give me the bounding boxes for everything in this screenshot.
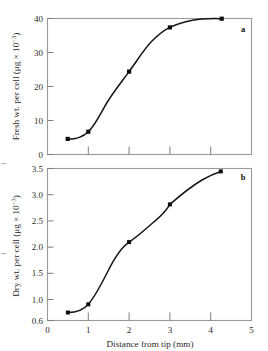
panel-b-data-point — [219, 169, 223, 173]
panel-a-y-tick-label: 10 — [34, 116, 44, 126]
panel-a-y-tick-labels: 0 10 20 30 40 — [34, 14, 44, 159]
x-tick-label: 4 — [208, 325, 213, 335]
panel-b-curve — [68, 172, 221, 313]
x-tick-label: 5 — [249, 325, 254, 335]
x-tick-label: 2 — [127, 325, 132, 335]
panel-a-y-tick-label: 40 — [34, 14, 44, 24]
panel-b-x-ticks — [88, 313, 210, 321]
panel-b-y-axis-title: Dry wt. per cell (μg × 10−3) — [10, 195, 21, 297]
panel-a-data-points — [66, 17, 224, 141]
panel-b-y-tick-label: 2.5 — [32, 216, 44, 226]
panel-b-y-axis-title-close: ) — [11, 195, 21, 198]
x-axis-title: Distance from tip (mm) — [106, 339, 193, 349]
panel-b-y-tick-labels: 0.6 1.0 1.5 2.0 2.5 3.0 3.5 — [32, 164, 44, 326]
panel-a-data-point — [86, 130, 90, 134]
panel-a-y-ticks — [48, 19, 54, 155]
panel-a-data-point — [168, 25, 172, 29]
panel-a-y-axis-title-close: ) — [11, 33, 21, 36]
panel-b-label: b — [241, 172, 246, 182]
panel-b-data-point — [127, 240, 131, 244]
panel-b-y-axis-title-main: Dry wt. per cell (μg × 10 — [11, 205, 21, 297]
panel-a-y-tick-label: 30 — [34, 48, 44, 58]
panel-b-y-tick-label: 1.0 — [32, 295, 44, 305]
panel-a-y-tick-label: 20 — [34, 82, 44, 92]
panel-b-y-tick-label: 0.6 — [32, 316, 44, 326]
panel-a-y-tick-label: 0 — [39, 150, 44, 160]
x-tick-label: 0 — [45, 325, 50, 335]
panel-a-data-point — [220, 17, 224, 21]
panel-b: 0.6 1.0 1.5 2.0 2.5 3.0 3.5 Dry wt. per … — [10, 164, 252, 326]
panel-a-data-point — [66, 137, 70, 141]
x-tick-label: 3 — [168, 325, 173, 335]
x-tick-label: 1 — [86, 325, 91, 335]
scan-artifact-mark — [1, 163, 6, 164]
panel-b-y-tick-label: 3.0 — [32, 190, 44, 200]
panel-a-label: a — [241, 24, 246, 34]
svg-text:Dry wt. per cell (μg × 10−3): Dry wt. per cell (μg × 10−3) — [10, 195, 21, 297]
scan-artifact-mark — [1, 253, 6, 254]
panel-a-data-point — [127, 70, 131, 74]
panel-a: 0 10 20 30 40 Fresh wt. per cell (μg × 1… — [10, 14, 252, 159]
panel-b-y-tick-label: 3.5 — [32, 164, 44, 174]
panel-b-data-point — [86, 302, 90, 306]
panel-b-y-tick-label: 1.5 — [32, 268, 44, 278]
panel-a-y-axis-title-main: Fresh wt. per cell (μg × 10 — [11, 42, 21, 140]
panel-a-y-axis-title: Fresh wt. per cell (μg × 10−3) — [10, 33, 21, 141]
panel-b-y-tick-label: 2.0 — [32, 242, 44, 252]
panel-b-data-points — [66, 169, 223, 314]
panel-b-y-ticks — [48, 169, 54, 321]
panel-b-frame — [48, 169, 252, 321]
panel-a-frame — [48, 19, 252, 155]
panel-b-data-point — [66, 311, 70, 315]
figure-container: 0 10 20 30 40 Fresh wt. per cell (μg × 1… — [0, 0, 268, 351]
two-panel-line-chart: 0 10 20 30 40 Fresh wt. per cell (μg × 1… — [0, 0, 268, 351]
svg-text:Fresh wt. per cell (μg × 10−3): Fresh wt. per cell (μg × 10−3) — [10, 33, 21, 141]
panel-a-curve — [68, 19, 222, 140]
panel-b-data-point — [168, 202, 172, 206]
x-tick-labels: 0 1 2 3 4 5 — [45, 325, 254, 335]
panel-a-x-ticks — [88, 147, 210, 155]
